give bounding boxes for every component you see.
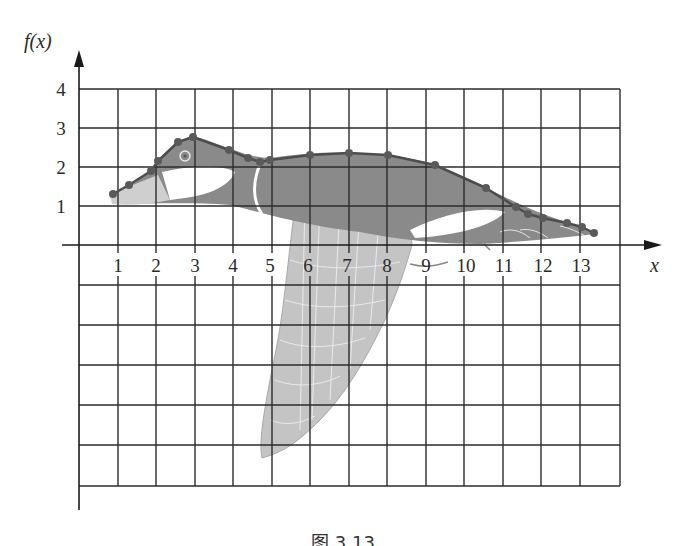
duck-illustration [110,137,596,458]
y-tick-labels: 1 2 3 4 [56,79,66,217]
grid [79,89,620,486]
x-tick: 11 [495,255,513,276]
x-tick: 1 [113,255,123,276]
figure-caption: 图 3.13 [0,528,686,546]
y-axis-arrow-icon [74,50,84,67]
x-tick: 7 [342,255,352,276]
x-tick: 5 [265,255,275,276]
y-tick: 3 [56,118,66,139]
x-axis-arrow-icon [644,240,662,250]
x-axis-title: x [649,254,659,276]
x-tick: 4 [228,255,238,276]
y-tick: 4 [56,79,66,100]
x-tick: 12 [534,255,553,276]
x-tick: 8 [382,255,392,276]
y-tick: 2 [56,157,66,178]
x-tick: 2 [151,255,161,276]
x-tick: 3 [190,255,200,276]
duck-function-chart: 1 2 3 4 5 6 7 8 9 10 11 12 13 1 2 3 4 f(… [0,0,686,546]
x-tick: 6 [303,255,313,276]
x-tick: 10 [457,255,476,276]
y-axis-title: f(x) [24,30,52,53]
x-tick: 9 [421,255,431,276]
y-tick: 1 [56,196,66,217]
x-tick: 13 [572,255,591,276]
